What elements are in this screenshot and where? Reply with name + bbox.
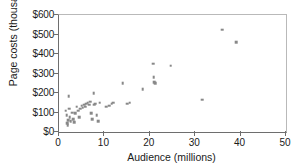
data-point xyxy=(235,41,238,44)
data-point xyxy=(75,105,78,108)
data-point xyxy=(65,109,68,112)
plot-area xyxy=(58,14,287,133)
x-axis-tick xyxy=(194,131,195,136)
x-axis-tick xyxy=(285,131,286,136)
data-points-layer xyxy=(59,15,286,132)
y-axis-tick-label: $200 xyxy=(33,87,54,98)
data-point xyxy=(84,105,87,108)
x-axis-tick-label: 0 xyxy=(55,137,61,148)
data-point xyxy=(95,114,98,117)
data-point xyxy=(154,82,157,85)
data-point xyxy=(153,76,156,79)
data-point xyxy=(221,28,224,31)
x-axis-tick-label: 20 xyxy=(143,137,154,148)
data-point xyxy=(129,101,132,104)
data-point xyxy=(74,112,77,115)
y-axis-tick-label: $600 xyxy=(33,9,54,20)
x-axis-tick-label: 40 xyxy=(234,137,245,148)
y-axis-tick-label: $100 xyxy=(33,106,54,117)
data-point xyxy=(201,99,204,102)
data-point xyxy=(73,121,76,124)
data-point xyxy=(94,102,97,105)
data-point xyxy=(78,116,81,119)
data-point xyxy=(67,95,70,98)
x-axis-title: Audience (millions) xyxy=(58,151,285,163)
data-point xyxy=(141,88,144,91)
data-point xyxy=(112,101,115,104)
data-point xyxy=(90,112,93,115)
data-point xyxy=(99,101,102,104)
data-point xyxy=(91,118,94,121)
data-point xyxy=(88,103,91,106)
x-axis-tick-label: 30 xyxy=(189,137,200,148)
data-point xyxy=(152,62,155,65)
data-point xyxy=(66,124,69,127)
y-axis-tick-label: $300 xyxy=(33,67,54,78)
x-axis-tick xyxy=(58,131,59,136)
x-axis-tick-label: 50 xyxy=(279,137,290,148)
y-axis-tick-label: $500 xyxy=(33,28,54,39)
data-point xyxy=(121,82,124,85)
data-point xyxy=(92,92,95,95)
data-point xyxy=(89,100,92,103)
x-axis-tick xyxy=(149,131,150,136)
y-axis-title: Page costs (thousands) xyxy=(7,0,19,90)
y-axis-tick-label: $400 xyxy=(33,48,54,59)
x-axis-tick-label: 10 xyxy=(98,137,109,148)
x-axis-tick xyxy=(103,131,104,136)
data-point xyxy=(97,120,100,123)
scatter-chart: Page costs (thousands) $0$100$200$300$40… xyxy=(0,0,297,168)
x-axis-tick xyxy=(240,131,241,136)
data-point xyxy=(169,64,172,67)
data-point xyxy=(68,107,71,110)
